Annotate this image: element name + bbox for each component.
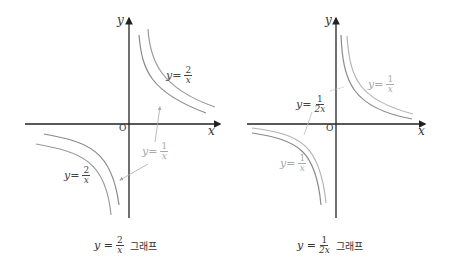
- left-graph: [25, 18, 220, 218]
- left-x-axis-label: x: [208, 124, 215, 138]
- left-y-axis-label: y: [117, 13, 124, 27]
- left-label-y-2-over-x-top: y= 2x: [166, 66, 192, 85]
- diagram-canvas: [0, 0, 450, 274]
- left-pointer-2: [120, 164, 148, 180]
- right-pointer-1: [330, 87, 344, 91]
- right-graph: [247, 18, 425, 218]
- right-origin-label: O: [326, 123, 333, 133]
- left-origin-label: O: [119, 123, 126, 133]
- right-label-y-1-over-x-top: y= 1x: [368, 75, 394, 94]
- right-label-y-1-over-2x: y= 12x: [296, 95, 325, 114]
- right-caption: y = 12x 그래프: [297, 236, 363, 255]
- right-x-axis-label: x: [418, 124, 425, 138]
- right-y-axis-label: y: [325, 13, 332, 27]
- left-label-y-2-over-x-bottom: y= 2x: [64, 166, 90, 185]
- left-label-y-1-over-x: y= 1x: [142, 142, 168, 161]
- left-caption: y = 2x 그래프: [94, 236, 157, 255]
- right-label-y-1-over-x-bottom: y= 1x: [280, 154, 306, 173]
